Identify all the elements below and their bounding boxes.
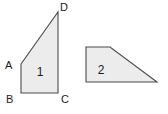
- vertex-label-c: C: [61, 93, 69, 105]
- vertex-label-b: B: [6, 93, 13, 105]
- figure-2-number: 2: [98, 63, 105, 77]
- vertex-label-a: A: [5, 59, 13, 71]
- vertex-label-d: D: [60, 1, 68, 13]
- geometry-figure-canvas: 1 A D C B 2: [0, 0, 168, 114]
- geometry-diagram: 1 A D C B 2: [0, 0, 168, 114]
- figure-1-number: 1: [37, 65, 44, 79]
- figure-2-group: 2: [86, 47, 157, 82]
- figure-2-shape: [86, 47, 157, 82]
- figure-1-group: 1 A D C B: [5, 1, 69, 105]
- figure-1-shape: [21, 12, 58, 93]
